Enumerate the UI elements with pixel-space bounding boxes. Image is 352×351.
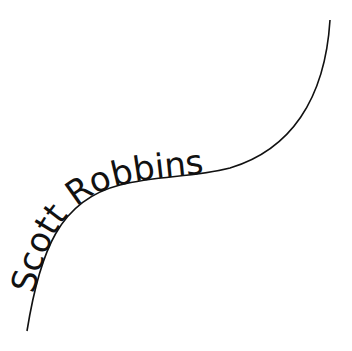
name-textpath: Scott Robbins xyxy=(3,141,206,296)
logo-graphic: Scott Robbins xyxy=(0,0,352,351)
curved-name-text: Scott Robbins xyxy=(3,141,206,296)
